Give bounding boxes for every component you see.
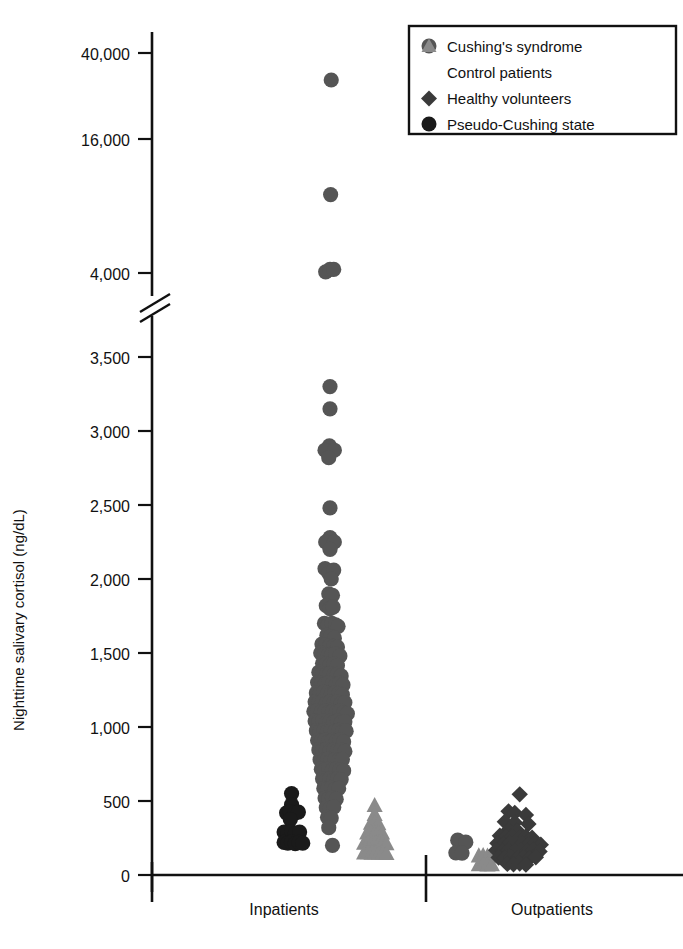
legend-marker-pseudo [422,117,437,132]
legend-label-cushing: Cushing's syndrome [447,38,582,55]
y-tick-label-4000: 4,000 [90,266,130,283]
y-tick-label-2000: 2,000 [90,572,130,589]
data-point [326,262,341,277]
data-point [321,820,336,835]
y-tick-label-16000: 16,000 [81,132,130,149]
y-tick-label-3000: 3,000 [90,424,130,441]
y-tick-label-1000: 1,000 [90,720,130,737]
data-point [322,542,337,557]
y-axis-title: Nighttime salivary cortisol (ng/dL) [10,509,27,731]
data-point [321,450,336,465]
legend-label-pseudo: Pseudo-Cushing state [447,116,595,133]
data-point [326,600,341,615]
scatter-plot: 40,000 16,000 4,000 3,500 3,000 2,500 2,… [0,0,683,949]
chart-legend: Cushing's syndrome Control patients Heal… [409,26,676,134]
data-point [454,845,469,860]
y-tick-label-1500: 1,500 [90,646,130,663]
legend-label-control: Control patients [447,64,552,81]
y-tick-label-3500: 3,500 [90,350,130,367]
data-point [324,72,339,87]
chart-figure: 40,000 16,000 4,000 3,500 3,000 2,500 2,… [0,0,683,949]
legend-label-healthy: Healthy volunteers [447,90,571,107]
data-point [322,401,337,416]
data-point [295,836,310,851]
x-category-label-inpatients: Inpatients [249,901,318,918]
data-point [322,500,337,515]
data-point [323,187,338,202]
y-tick-label-0: 0 [121,868,130,885]
x-category-label-outpatients: Outpatients [511,901,593,918]
data-point [324,571,339,586]
data-point [322,379,337,394]
y-tick-label-2500: 2,500 [90,498,130,515]
y-tick-label-40000: 40,000 [81,46,130,63]
y-tick-label-500: 500 [103,794,130,811]
data-point [325,838,340,853]
